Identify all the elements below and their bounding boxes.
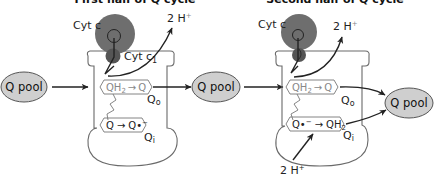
qo-reaction-right: QH2→Q [292, 82, 332, 95]
q-pool-right: Q pool [385, 88, 433, 118]
complex-outline-left [87, 51, 177, 166]
protons-top-label: 2 H+ [167, 12, 192, 25]
q-pool-left: Q pool [1, 72, 47, 102]
first-half-panel: Q pool Cyt c Cyt c1 2 H+ QH2→Q Qo Q→Q•− … [1, 12, 192, 166]
cyt-c-label-right: Cyt c [258, 18, 286, 31]
panel-title-second-half: Second half of Q cycle [266, 0, 403, 6]
second-half-panel: Cyt c 2 H+ QH2→Q Qo Q•−→QH2 Qi 2 H+ [258, 14, 386, 177]
electron-zigzag-left [107, 94, 116, 120]
proton-uptake-arrow [293, 134, 313, 160]
cyt-c1-label: Cyt c1 [124, 50, 157, 65]
qo-site-label: Qo [147, 93, 161, 107]
cyt-c1-circle-right [292, 48, 306, 62]
qo-site-label-right: Qo [341, 94, 355, 108]
q-pool-left-label: Q pool [5, 80, 42, 94]
qi-reaction-right: Q•−→QH2 [292, 118, 346, 132]
q-pool-middle: Q pool [192, 72, 240, 102]
arrow-qi-to-pool-right [346, 110, 386, 124]
protons-bottom-label: 2 H+ [280, 164, 305, 177]
protons-top-label-right: 2 H+ [333, 20, 358, 33]
qi-site-label: Qi [144, 131, 155, 145]
cyt-c1-circle [106, 49, 121, 64]
cyt-c-label: Cyt c [73, 19, 101, 32]
cyt-c-circle-right [281, 14, 317, 50]
panel-title-first-half: First half of Q cycle [75, 0, 196, 6]
q-pool-middle-label: Q pool [197, 80, 234, 94]
qi-reaction: Q→Q•− [106, 119, 148, 131]
qo-reaction: QH2→Q [106, 82, 146, 95]
qi-site-label-right: Qi [343, 129, 354, 143]
electron-zigzag-right [291, 94, 300, 120]
q-pool-right-label: Q pool [390, 96, 427, 110]
q-cycle-diagram: First half of Q cycle Second half of Q c… [0, 0, 434, 179]
